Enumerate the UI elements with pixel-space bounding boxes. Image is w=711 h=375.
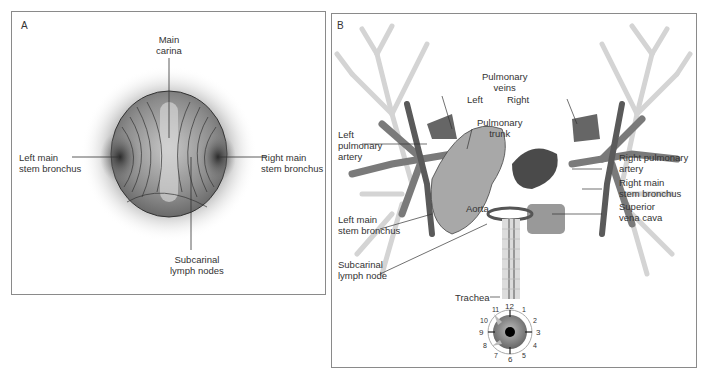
label-left-main-stem-bronchus: Left main stem bronchus [19,152,81,174]
label-superior-vena-cava: Superior vena cava [619,201,662,223]
label-right-vein: Right [507,94,529,105]
panel-b: B [331,13,697,368]
clock-number-10: 10 [480,315,488,326]
clock-number-8: 8 [483,340,487,351]
label-main-carina: Main carina [156,34,182,56]
label-subcarinal-lymph-node: Subcarinal lymph node [338,259,387,281]
clock-number-3: 3 [536,327,540,338]
label-aorta: Aorta [466,203,489,214]
clock-number-2: 2 [533,315,537,326]
clock-number-11: 11 [492,304,499,315]
label-subcarinal-lymph-nodes: Subcarinal lymph nodes [170,254,224,276]
label-left-pulmonary-artery: Left pulmonary artery [338,129,382,162]
label-right-main-stem-bronchus: Right main stem bronchus [261,152,323,174]
label-right-main-stem-bronchus: Right main stem bronchus [619,177,681,199]
clock-number-7: 7 [494,350,498,361]
label-left-main-stem-bronchus: Left main stem bronchus [338,214,400,236]
label-pulmonary-veins: Pulmonary veins [482,71,527,93]
clock-number-6: 6 [508,354,512,365]
label-pulmonary-trunk: Pulmonary trunk [477,117,522,139]
label-left-vein: Left [467,94,483,105]
clock-number-5: 5 [522,350,526,361]
clock-number-9: 9 [479,327,483,338]
label-right-pulmonary-artery: Right pulmonary artery [619,152,688,174]
clock-number-4: 4 [533,340,537,351]
clock-number-12: 12 [505,301,514,312]
label-trachea: Trachea [455,292,490,303]
clock-number-1: 1 [522,304,526,315]
clock-orientation-icon [488,310,532,354]
panel-a: A [11,11,326,295]
